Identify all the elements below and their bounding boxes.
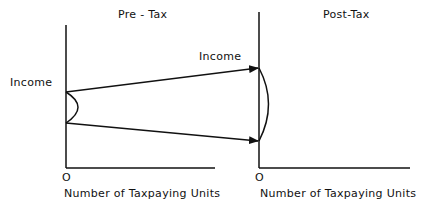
right-panel-title: Post-Tax xyxy=(323,8,370,21)
left-origin-label: O xyxy=(62,171,71,184)
left-y-axis-label: Income xyxy=(10,76,52,89)
left-x-axis-label: Number of Taxpaying Units xyxy=(64,187,220,200)
right-income-label: Income xyxy=(199,50,241,63)
pre-tax-distribution-arc xyxy=(66,92,78,123)
right-origin-label: O xyxy=(255,171,264,184)
right-x-axis-label: Number of Taxpaying Units xyxy=(260,187,416,200)
post-tax-distribution-arc xyxy=(259,68,269,141)
left-panel-title: Pre - Tax xyxy=(118,8,167,21)
upper-arrow xyxy=(66,68,258,92)
lower-arrow xyxy=(66,123,258,141)
